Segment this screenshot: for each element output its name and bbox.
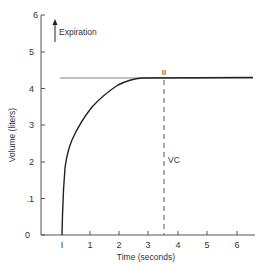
- x-tick-label: 6: [234, 240, 239, 250]
- x-tick-label: 5: [204, 240, 209, 250]
- x-tick-label: 4: [175, 240, 180, 250]
- volume-curve: [62, 78, 253, 236]
- x-tick-label: 1: [87, 240, 92, 250]
- y-ticks: [41, 15, 45, 235]
- y-axis-title: Volume (liters): [7, 108, 17, 162]
- expiration-arrow-icon: [53, 19, 58, 42]
- vc-top-marker: II: [162, 68, 166, 77]
- y-tick-label: .1: [26, 194, 34, 204]
- y-tick-label: 3: [29, 120, 34, 130]
- x-tick-label: I: [61, 240, 64, 250]
- x-axis-title: Time (seconds): [117, 252, 175, 262]
- expiration-label: Expiration: [59, 27, 97, 37]
- y-tick-label: 6: [33, 10, 38, 20]
- x-tick-label: 2: [116, 240, 121, 250]
- x-tick-label: 3: [145, 240, 150, 250]
- volume-time-chart: 0 .1 2 3 4 5 6 I 1 2 3 4 5 6 Time (secon…: [0, 0, 266, 265]
- x-tick-labels: I 1 2 3 4 5 6: [61, 240, 240, 250]
- y-tick-label: 2: [29, 157, 34, 167]
- y-tick-label: 0: [25, 230, 30, 240]
- y-tick-label: 4: [29, 84, 34, 94]
- vc-label: VC: [168, 155, 180, 165]
- y-tick-label: 5: [29, 47, 34, 57]
- y-tick-labels: 0 .1 2 3 4 5 6: [25, 10, 38, 240]
